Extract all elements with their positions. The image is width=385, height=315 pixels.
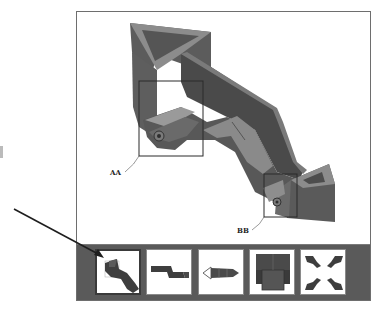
exploded-view-thumbnail-icon xyxy=(301,250,347,296)
view-thumbnail-strip xyxy=(77,244,370,300)
side-view-thumbnail-icon xyxy=(147,250,193,296)
end-view-thumbnail-icon xyxy=(199,250,245,296)
thumbnail-exploded-view[interactable] xyxy=(300,249,346,295)
leader-aa xyxy=(125,156,139,172)
thumbnail-side-view[interactable] xyxy=(146,249,192,295)
bracket-3d-model xyxy=(77,12,370,244)
model-viewer: AA BB xyxy=(76,11,371,301)
detail-label-aa: AA xyxy=(110,168,121,177)
thumbnail-front-view[interactable] xyxy=(249,249,295,295)
isometric-thumbnail-icon xyxy=(97,251,143,297)
thumbnail-end-view[interactable] xyxy=(198,249,244,295)
thumbnail-isometric-view[interactable] xyxy=(95,249,141,295)
leader-bb xyxy=(252,217,264,230)
margin-artifact xyxy=(0,146,3,158)
3d-viewport[interactable]: AA BB xyxy=(77,12,370,244)
front-view-thumbnail-icon xyxy=(250,250,296,296)
detail-label-bb: BB xyxy=(237,226,249,235)
